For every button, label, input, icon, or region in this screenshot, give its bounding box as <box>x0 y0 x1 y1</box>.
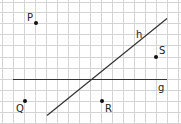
point-label-Q: Q <box>16 103 24 114</box>
point-S <box>154 55 158 59</box>
point-label-R: R <box>105 103 112 114</box>
line-h <box>47 19 167 116</box>
point-label-P: P <box>27 12 33 23</box>
grid-diagram: gh PSQR <box>0 0 181 124</box>
point-label-S: S <box>159 45 165 56</box>
point-R <box>100 99 104 103</box>
line-label-h: h <box>136 29 142 40</box>
line-label-g: g <box>158 82 164 93</box>
point-P <box>34 21 38 25</box>
